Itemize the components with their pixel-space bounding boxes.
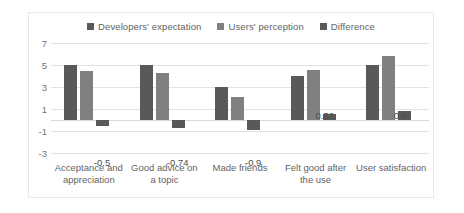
x-axis-category-label: Felt good after the use — [278, 159, 354, 193]
bar-data-label: 0.52 — [316, 110, 335, 121]
bar[interactable] — [291, 76, 304, 120]
bar-group: 0.52 — [278, 43, 354, 153]
legend-item-difference: Difference — [320, 21, 375, 32]
legend-item-label: Developers' expectation — [98, 21, 201, 32]
bar-group: -0.74 — [127, 43, 203, 153]
legend-item-developers-expectation: Developers' expectation — [87, 21, 201, 32]
x-axis-category-label: Made friends — [202, 159, 278, 193]
bar-group: 0.8 — [353, 43, 429, 153]
legend-swatch-icon — [87, 23, 94, 30]
chart-legend: Developers' expectation Users' perceptio… — [29, 21, 433, 32]
bar-data-label: 0.8 — [394, 110, 407, 121]
bar[interactable] — [247, 120, 260, 130]
legend-item-label: Users' perception — [228, 21, 303, 32]
plot-canvas: -0.5-0.74-0.90.520.8 — [51, 43, 429, 153]
bar-group: -0.9 — [202, 43, 278, 153]
bar[interactable] — [64, 65, 77, 120]
bar[interactable] — [172, 120, 185, 128]
y-axis-tick-label: 7 — [42, 38, 47, 49]
plot-area: 7531-1-3 -0.5-0.74-0.90.520.8 — [29, 43, 433, 153]
x-axis-category-label: Good advice on a topic — [127, 159, 203, 193]
y-axis: 7531-1-3 — [29, 43, 51, 153]
bars-layer: -0.5-0.74-0.90.520.8 — [51, 43, 429, 153]
x-axis-category-label: User satisfaction — [353, 159, 429, 193]
x-axis-category-label: Acceptance and appreciation — [51, 159, 127, 193]
bar-group: -0.5 — [51, 43, 127, 153]
bar[interactable] — [231, 97, 244, 120]
legend-swatch-icon — [217, 23, 224, 30]
y-axis-tick-label: 5 — [42, 60, 47, 71]
bar-chart: Developers' expectation Users' perceptio… — [28, 12, 434, 198]
y-axis-tick-label: -3 — [39, 148, 47, 159]
bar[interactable] — [96, 120, 109, 126]
y-axis-tick-label: -1 — [39, 126, 47, 137]
legend-swatch-icon — [320, 23, 327, 30]
y-axis-tick-label: 3 — [42, 82, 47, 93]
bar[interactable] — [140, 65, 153, 120]
legend-item-label: Difference — [331, 21, 375, 32]
legend-item-users-perception: Users' perception — [217, 21, 303, 32]
x-axis: Acceptance and appreciationGood advice o… — [51, 159, 429, 193]
y-axis-tick-label: 1 — [42, 104, 47, 115]
bar[interactable] — [80, 71, 93, 121]
gridline — [51, 153, 429, 154]
bar[interactable] — [215, 87, 228, 120]
bar[interactable] — [156, 73, 169, 120]
bar[interactable] — [366, 65, 379, 120]
